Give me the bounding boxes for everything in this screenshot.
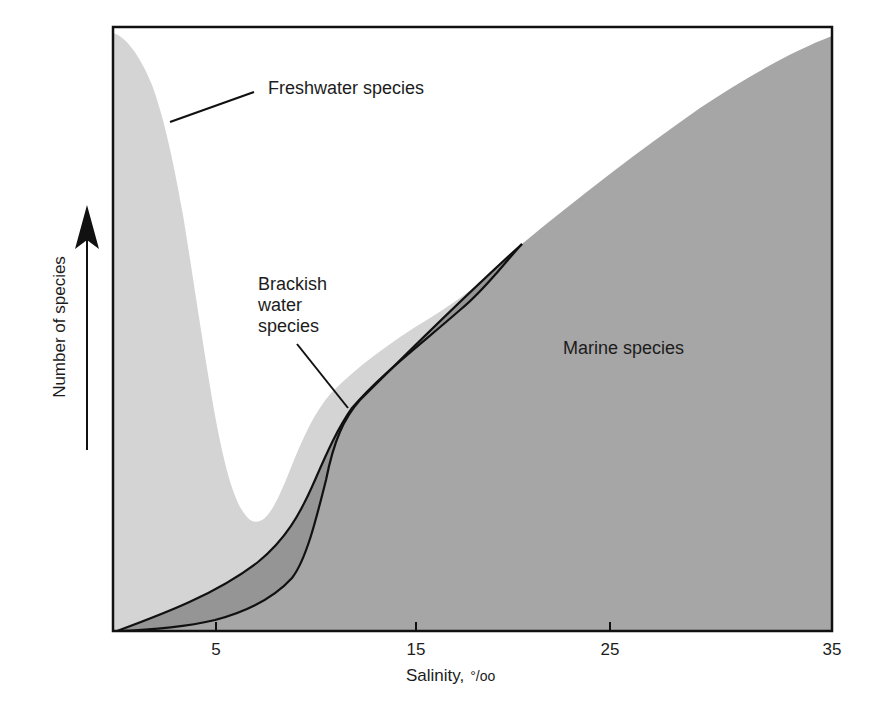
x-axis-unit: °/oo xyxy=(470,668,495,684)
x-tick-label-35: 35 xyxy=(823,640,842,660)
brackish-species-label: Brackish water species xyxy=(258,274,327,337)
x-tick-label-25: 25 xyxy=(601,640,620,660)
x-tick-label-15: 15 xyxy=(407,640,426,660)
brackish-label-line1: Brackish xyxy=(258,274,327,295)
x-axis-title: Salinity,°/oo xyxy=(406,666,495,686)
marine-species-label: Marine species xyxy=(563,338,684,359)
y-axis-title: Number of species xyxy=(50,256,70,398)
x-axis-title-text: Salinity, xyxy=(406,666,464,685)
freshwater-leader-line xyxy=(170,92,254,122)
brackish-leader-line xyxy=(297,344,348,408)
brackish-label-line3: species xyxy=(258,316,327,337)
salinity-species-chart xyxy=(0,0,884,721)
x-tick-label-5: 5 xyxy=(211,640,220,660)
brackish-label-line2: water xyxy=(258,295,327,316)
freshwater-species-label: Freshwater species xyxy=(268,78,424,99)
